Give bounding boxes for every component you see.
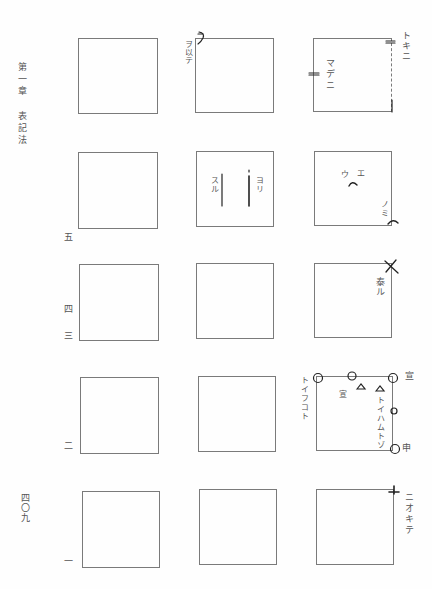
- label-toihamutozo: トイハムトゾ: [375, 396, 383, 450]
- grid-square-r4c1: [80, 377, 159, 454]
- label-niokite: ニオキテ: [404, 492, 413, 536]
- row-number-3: 三: [64, 332, 73, 341]
- grid-square-r1c2: [195, 38, 274, 113]
- label-taru: 泰ル: [375, 277, 384, 297]
- label-yori: ヨリ: [254, 176, 262, 194]
- grid-square-r4c2: [198, 376, 276, 452]
- label-toifukoto: トイフコト: [299, 376, 307, 421]
- row-number-1: 一: [64, 557, 73, 566]
- grid-square-r5c1: [82, 491, 160, 568]
- label-sen-inner: 宣: [339, 391, 347, 399]
- label-sen-right: 宣: [405, 372, 414, 381]
- label-u: ウ: [341, 171, 349, 179]
- document-page: 第一章 表記法 四〇九 五 四 三 二 一 ヲ以テ マデニ トキニ スル ヨリ …: [0, 0, 432, 589]
- row-number-2: 二: [64, 442, 73, 451]
- label-nomi: ノミ: [379, 200, 387, 218]
- label-wo-motte: ヲ以テ: [183, 40, 191, 64]
- label-madeni: マデニ: [325, 58, 334, 91]
- grid-square-r5c3: [316, 489, 394, 565]
- grid-square-r3c2: [196, 263, 274, 339]
- row-number-4: 四: [64, 305, 73, 314]
- label-shin: 申: [402, 444, 411, 453]
- label-e: エ: [357, 170, 365, 178]
- label-tokini: トキニ: [401, 31, 410, 61]
- grid-square-r5c2: [199, 489, 277, 565]
- grid-square-r3c1: [79, 264, 159, 341]
- chapter-heading: 第一章 表記法: [17, 62, 26, 147]
- grid-square-r2c1: [78, 152, 158, 229]
- row-number-5: 五: [64, 233, 73, 242]
- label-suru: スル: [209, 176, 217, 194]
- page-number: 四〇九: [20, 493, 29, 523]
- grid-square-r1c1: [78, 38, 158, 114]
- grid-square-r3c3: [314, 263, 392, 338]
